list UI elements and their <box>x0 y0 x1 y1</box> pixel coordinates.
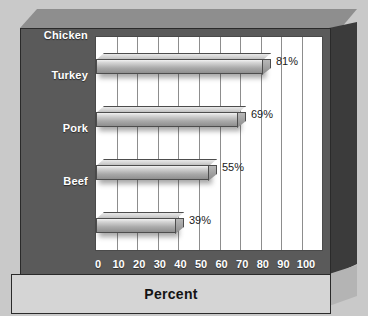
bar-beef[interactable] <box>96 159 217 180</box>
frame-right-bevel <box>329 22 357 277</box>
x-tick-20: 20 <box>133 258 145 270</box>
x-tick-30: 30 <box>154 258 166 270</box>
category-label-beef: Beef <box>63 175 88 187</box>
x-tick-0: 0 <box>95 258 101 270</box>
chart-panel: Turkey Pork Beef Chicken <box>20 28 331 278</box>
bar-row-beef: 55% <box>96 149 322 187</box>
x-tick-90: 90 <box>277 258 289 270</box>
bar-side-face <box>208 165 217 181</box>
x-tick-70: 70 <box>236 258 248 270</box>
caption-panel: Percent <box>11 274 331 314</box>
x-axis-title: Percent <box>144 286 197 302</box>
value-label-pork: 69% <box>251 108 273 120</box>
bar-front-face <box>96 165 209 180</box>
chart-figure: Turkey Pork Beef Chicken <box>0 0 368 316</box>
plot-area: 81% 69% 55% <box>95 36 323 251</box>
bar-row-turkey: 81% <box>96 43 322 81</box>
bar-chicken[interactable] <box>96 212 184 233</box>
category-label-pork: Pork <box>63 122 88 134</box>
bar-side-face <box>237 112 246 128</box>
bar-front-face <box>96 218 176 233</box>
bar-side-face <box>262 59 271 75</box>
bar-row-chicken: 39% <box>96 202 322 240</box>
frame-top-bevel <box>11 9 357 28</box>
chart-3d-frame: Turkey Pork Beef Chicken <box>11 9 357 305</box>
x-tick-50: 50 <box>195 258 207 270</box>
value-label-beef: 55% <box>222 161 244 173</box>
x-tick-80: 80 <box>257 258 269 270</box>
x-tick-40: 40 <box>174 258 186 270</box>
bar-row-pork: 69% <box>96 96 322 134</box>
bar-front-face <box>96 112 238 127</box>
x-tick-10: 10 <box>112 258 124 270</box>
bar-pork[interactable] <box>96 106 246 127</box>
category-label-chicken: Chicken <box>44 29 88 41</box>
category-label-turkey: Turkey <box>52 69 88 81</box>
category-axis-column: Turkey Pork Beef Chicken <box>21 29 94 279</box>
bar-turkey[interactable] <box>96 53 271 74</box>
bar-side-face <box>175 218 184 234</box>
x-tick-60: 60 <box>215 258 227 270</box>
value-label-chicken: 39% <box>189 214 211 226</box>
value-label-turkey: 81% <box>276 55 298 67</box>
bar-front-face <box>96 59 263 74</box>
x-tick-100: 100 <box>297 258 315 270</box>
